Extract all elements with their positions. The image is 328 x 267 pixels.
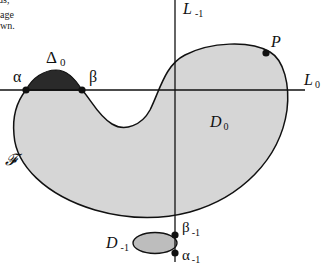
label-beta-minus1: β-1	[182, 219, 200, 238]
point-p	[262, 49, 269, 56]
point-beta	[78, 86, 85, 93]
label-alpha-minus1: α-1	[182, 247, 200, 265]
diagram-canvas: Δ0 α β L-1 L0 P D0 𝓕 D-1 β-1 α-1	[0, 0, 328, 267]
region-delta0	[26, 70, 82, 90]
label-delta0: Δ0	[46, 48, 66, 68]
point-beta-minus1	[171, 231, 178, 238]
label-alpha: α	[13, 68, 22, 85]
label-d-minus1: D-1	[105, 234, 129, 253]
label-beta: β	[89, 68, 97, 86]
label-l-minus1: L-1	[182, 0, 203, 19]
point-alpha-minus1	[171, 249, 178, 256]
region-d-minus1	[133, 233, 177, 254]
point-alpha	[22, 86, 29, 93]
label-p: P	[270, 33, 281, 50]
label-l0: L0	[303, 71, 320, 90]
